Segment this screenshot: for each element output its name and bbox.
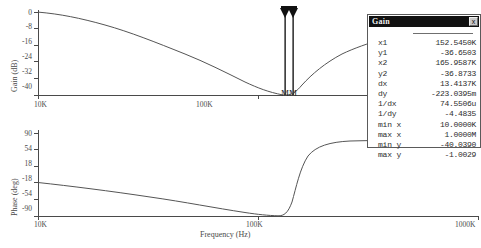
phase-xtick-1: 100K bbox=[246, 220, 263, 229]
panel-row-max-x: max x 1.0000M bbox=[368, 130, 480, 140]
panel-row-min-x: min x 10.0000K bbox=[368, 120, 480, 130]
panel-key-inv-dx: 1/dx bbox=[368, 99, 410, 108]
gain-ytick-5: -40 bbox=[8, 82, 32, 91]
panel-value-x2: 165.9587K bbox=[410, 58, 480, 67]
panel-row-dy: dy -223.0395m bbox=[368, 89, 480, 99]
gain-xtick-1: 100K bbox=[196, 100, 213, 109]
panel-value-dx: 13.4137K bbox=[410, 79, 480, 88]
panel-row-y2: y2 -36.8733 bbox=[368, 69, 480, 79]
close-icon[interactable]: x bbox=[469, 17, 478, 26]
panel-key-min-y: min y bbox=[368, 140, 410, 149]
panel-row-inv-dx: 1/dx 74.5506u bbox=[368, 99, 480, 109]
phase-ytick-3: -18 bbox=[8, 174, 32, 183]
panel-title: Gain bbox=[372, 16, 469, 27]
gain-ytick-1: -8 bbox=[8, 22, 32, 31]
panel-value-y1: -36.6503 bbox=[410, 48, 480, 57]
panel-row-min-y: min y -40.0390 bbox=[368, 140, 480, 150]
panel-key-x2: x2 bbox=[368, 58, 410, 67]
panel-key-dy: dy bbox=[368, 89, 410, 98]
panel-value-y2: -36.8733 bbox=[410, 69, 480, 78]
gain-ytick-3: -24 bbox=[8, 52, 32, 61]
gain-ytick-4: -32 bbox=[8, 67, 32, 76]
panel-value-inv-dy: -4.4835 bbox=[410, 109, 480, 118]
bode-plot-screen: Gain (dB) 0 -8 -16 -24 -32 -40 10K 100K bbox=[0, 0, 481, 248]
panel-key-y1: y1 bbox=[368, 48, 410, 57]
panel-row-dx: dx 13.4137K bbox=[368, 79, 480, 89]
phase-ytick-2: 18 bbox=[8, 159, 32, 168]
panel-row-x1: x1 152.5450K bbox=[368, 38, 480, 48]
panel-row-max-y: max y -1.0029 bbox=[368, 150, 480, 160]
panel-key-x1: x1 bbox=[368, 38, 410, 47]
gain-ytick-2: -16 bbox=[8, 37, 32, 46]
phase-ytick-0: 90 bbox=[8, 129, 32, 138]
cursor-2-label: M bbox=[289, 88, 297, 98]
panel-key-y2: y2 bbox=[368, 69, 410, 78]
panel-value-max-x: 1.0000M bbox=[410, 130, 480, 139]
panel-row-y1: y1 -36.6503 bbox=[368, 48, 480, 58]
panel-value-min-y: -40.0390 bbox=[410, 140, 480, 149]
panel-rows: x1 152.5450K y1 -36.6503 x2 165.9587K y2… bbox=[368, 38, 480, 160]
cursor-measurement-panel[interactable]: Gain x x1 152.5450K y1 -36.6503 x2 165.9… bbox=[367, 14, 481, 148]
gain-xtick-0: 10K bbox=[34, 100, 47, 109]
panel-row-inv-dy: 1/dy -4.4835 bbox=[368, 109, 480, 119]
panel-value-inv-dx: 74.5506u bbox=[410, 99, 480, 108]
phase-y-ticks bbox=[34, 133, 38, 216]
panel-key-inv-dy: 1/dy bbox=[368, 109, 410, 118]
cursor-1-label: M bbox=[281, 88, 289, 98]
cursor-1-marker[interactable] bbox=[280, 6, 290, 95]
panel-row-x2: x2 165.9587K bbox=[368, 58, 480, 68]
cursor-2-marker[interactable] bbox=[288, 6, 298, 95]
gain-ytick-0: 0 bbox=[8, 8, 32, 17]
gain-y-ticks bbox=[34, 12, 38, 95]
panel-titlebar[interactable]: Gain x bbox=[369, 16, 479, 27]
panel-key-max-x: max x bbox=[368, 130, 410, 139]
panel-key-max-y: max y bbox=[368, 150, 410, 159]
phase-ytick-4: -54 bbox=[8, 189, 32, 198]
panel-key-dx: dx bbox=[368, 79, 410, 88]
panel-value-min-x: 10.0000K bbox=[410, 120, 480, 129]
phase-xtick-0: 10K bbox=[34, 220, 47, 229]
phase-ytick-5: -90 bbox=[8, 204, 32, 213]
panel-divider bbox=[413, 33, 473, 34]
phase-xtick-2: 1000K bbox=[455, 220, 475, 229]
panel-value-x1: 152.5450K bbox=[410, 38, 480, 47]
panel-key-min-x: min x bbox=[368, 120, 410, 129]
panel-value-dy: -223.0395m bbox=[410, 89, 480, 98]
phase-x-axis-title: Frequency (Hz) bbox=[200, 230, 250, 239]
panel-value-max-y: -1.0029 bbox=[410, 150, 480, 159]
phase-ytick-1: 54 bbox=[8, 144, 32, 153]
